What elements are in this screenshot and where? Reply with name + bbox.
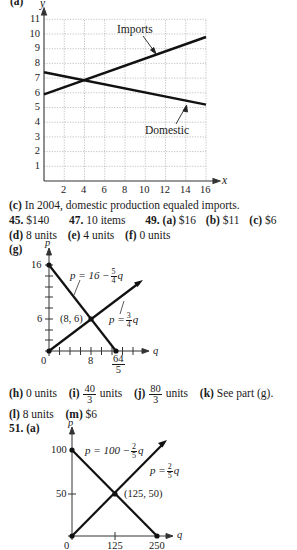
answer-text: $6 — [265, 214, 277, 226]
answer-label: (b) — [206, 214, 220, 226]
chart-g-q-label: q — [153, 344, 158, 358]
question-number: 47. — [69, 214, 83, 226]
question-number: 49. — [145, 214, 159, 226]
eq-suffix: q — [138, 444, 144, 456]
chart-g-x0: 0 — [41, 354, 46, 368]
eq-prefix: p = 16 − — [70, 269, 110, 281]
answer-text: units — [100, 387, 122, 399]
point-125-50 — [112, 491, 117, 496]
answer-text: 8 units — [26, 229, 57, 241]
answer-text: $6 — [86, 408, 98, 420]
answer-g-label: (g) — [9, 242, 22, 256]
frac-den: 4 — [126, 321, 132, 329]
chart-a-y-axis-label: y — [40, 0, 45, 10]
point-250-0 — [154, 533, 159, 538]
frac-den: 3 — [83, 395, 96, 405]
y-tick: 10 — [30, 28, 41, 39]
answers-row-lm: (l) 8 units (m) $6 — [9, 407, 97, 421]
answer-51a-label: 51. (a) — [9, 421, 40, 435]
y-tick: 4 — [35, 116, 40, 127]
frac-den: 5 — [167, 472, 173, 480]
x-tick: 6 — [102, 184, 107, 195]
answer-text: $16 — [179, 214, 196, 226]
chart-g-demand-eq: p = 16 −54q — [70, 268, 123, 285]
supply-arrow-51 — [158, 440, 167, 448]
answer-text: $11 — [223, 214, 240, 226]
domestic-line — [44, 72, 206, 104]
x-tick: 4 — [81, 184, 86, 195]
answer-text: units — [166, 387, 188, 399]
x-tick: 16 — [200, 184, 211, 195]
answer-label: (c) — [249, 214, 262, 226]
answer-label: (f) — [125, 229, 137, 241]
chart-g-p-label: p — [45, 236, 50, 250]
y-tick: 5 — [35, 101, 40, 112]
answer-label: (i) — [69, 387, 80, 399]
answer-text: 0 units — [26, 387, 57, 399]
question-number: 51. — [9, 422, 23, 434]
chart-a-part-label: (a) — [10, 0, 23, 8]
x-tick: 8 — [122, 184, 127, 195]
imports-label: Imports — [117, 22, 153, 36]
chart-51-y100: 100 — [51, 443, 67, 457]
y-tick: 8 — [35, 57, 40, 68]
x-tick: 10 — [139, 184, 150, 195]
domestic-label: Domestic — [145, 123, 189, 137]
x-tick: 2 — [61, 184, 66, 195]
eq-suffix: q — [118, 269, 124, 281]
eq-prefix: p = — [150, 464, 166, 476]
chart-51-q-label: q — [177, 528, 182, 542]
chart-51-demand-eq: p = 100 −25q — [85, 443, 144, 460]
eq-suffix: q — [174, 464, 180, 476]
eq-suffix: q — [133, 313, 139, 325]
y-tick: 9 — [35, 42, 40, 53]
x-tick: 12 — [160, 184, 171, 195]
answer-c: (c) In 2004, domestic production equaled… — [9, 198, 240, 212]
frac-den: 5 — [112, 365, 125, 375]
x-tick: 14 — [180, 184, 191, 195]
y-tick: 2 — [35, 145, 40, 156]
answer-label: (c) — [9, 199, 22, 211]
frac-den: 4 — [111, 277, 117, 285]
answers-row-hijk: (h) 0 units (i) 403 units (j) 803 units … — [9, 384, 273, 405]
answer-text: See part (g). — [217, 387, 274, 399]
answer-label: (j) — [134, 387, 146, 399]
answer-label: (k) — [200, 387, 214, 399]
chart-g-x8: 8 — [88, 354, 93, 368]
chart-51-intersection-label: (125, 50) — [124, 487, 163, 501]
chart-a-x-axis-label: x — [222, 173, 227, 187]
answers-row-45-49: 45. $140 47. 10 items 49. (a) $16 (b) $1… — [9, 213, 277, 227]
answers-row-def: (d) 8 units (e) 4 units (f) 0 units — [9, 228, 170, 242]
point-origin-g — [46, 348, 51, 353]
answer-text: $140 — [26, 214, 49, 226]
answer-text: 4 units — [83, 229, 114, 241]
chart-51-x250: 250 — [149, 539, 165, 550]
y-tick: 1 — [35, 160, 40, 171]
point-origin-51 — [69, 533, 74, 538]
chart-g-supply-eq: p =34q — [109, 312, 138, 329]
question-number: 45. — [9, 214, 23, 226]
supply-arrow-g — [134, 280, 143, 287]
chart-51-x125: 125 — [107, 539, 123, 550]
answer-text: 10 items — [86, 214, 125, 226]
chart-51-p-label: p — [68, 416, 73, 430]
y-tick: 6 — [35, 87, 40, 98]
answer-text: 8 units — [23, 408, 54, 420]
chart-g-x64-5: 645 — [111, 354, 126, 375]
eq-prefix: p = 100 − — [85, 444, 130, 456]
chart-51-y50: 50 — [56, 487, 67, 501]
chart-g-y16: 16 — [31, 258, 42, 272]
answer-text: In 2004, domestic production equaled imp… — [25, 199, 240, 211]
y-tick: 7 — [35, 72, 40, 83]
answer-label: (h) — [9, 387, 23, 399]
point-8-6 — [88, 316, 93, 321]
point-0-100 — [69, 447, 74, 452]
chart-g-intersection-label: (8, 6) — [60, 312, 83, 326]
frac-den: 5 — [131, 452, 137, 460]
answer-text: 0 units — [139, 229, 170, 241]
point-0-16 — [46, 262, 51, 267]
chart-51-x0: 0 — [64, 539, 69, 550]
y-tick: 11 — [30, 13, 40, 24]
answer-label: (a) — [26, 422, 39, 434]
y-tick: 3 — [35, 131, 40, 142]
